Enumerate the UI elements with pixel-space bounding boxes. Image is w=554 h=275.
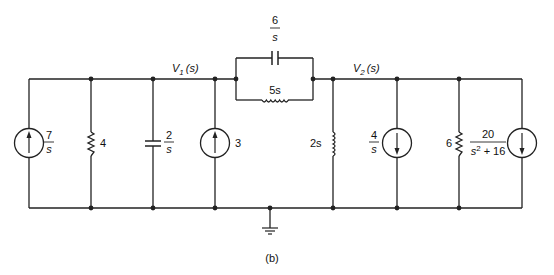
- ground-icon: [262, 228, 278, 234]
- svg-text:s: s: [272, 31, 278, 43]
- junction-dot: [151, 206, 156, 211]
- circuit-diagram: V1(s) V2(s) 7 s 4 2 s 3 6 s 5s: [0, 0, 554, 275]
- junction-dot: [331, 77, 336, 82]
- svg-text:s: s: [46, 143, 52, 155]
- inductor-5s: 5s: [262, 84, 288, 102]
- junction-dot: [213, 77, 218, 82]
- junction-dot: [89, 206, 94, 211]
- svg-text:2s: 2s: [310, 137, 322, 149]
- current-source-3: 3: [201, 129, 242, 158]
- arrow-up-icon: [213, 131, 218, 138]
- resistor-4: 4: [88, 132, 106, 156]
- inductor-icon: [333, 132, 335, 156]
- svg-text:3: 3: [235, 137, 241, 149]
- resistor-icon: [88, 132, 94, 156]
- node-label-v1: V1(s): [172, 62, 199, 77]
- junction-dot: [151, 77, 156, 82]
- node-label-v2: V2(s): [353, 62, 380, 77]
- svg-text:2: 2: [166, 129, 172, 141]
- svg-text:4: 4: [371, 129, 377, 141]
- current-source-20-over-s2-plus-16: 20 s2 + 16: [470, 128, 537, 158]
- resistor-icon: [456, 132, 462, 156]
- junction-dot: [234, 77, 239, 82]
- junctions: [89, 77, 462, 211]
- junction-dot: [395, 77, 400, 82]
- junction-dot: [89, 77, 94, 82]
- junction-dot: [213, 206, 218, 211]
- svg-text:s: s: [371, 143, 377, 155]
- inductor-icon: [262, 100, 288, 102]
- inductor-5s-label: 5s: [269, 84, 281, 96]
- svg-text:s: s: [166, 143, 172, 155]
- current-source-7-over-s: 7 s: [15, 129, 55, 158]
- svg-text:20: 20: [482, 128, 494, 140]
- junction-dot: [395, 206, 400, 211]
- arrow-down-icon: [395, 148, 400, 155]
- junction-dot: [268, 206, 273, 211]
- inductor-2s: 2s: [310, 132, 335, 156]
- junction-dot: [331, 206, 336, 211]
- junction-dot: [457, 206, 462, 211]
- svg-text:7: 7: [46, 129, 52, 141]
- capacitor-6-over-s: 6 s: [270, 14, 280, 65]
- arrow-up-icon: [27, 131, 32, 138]
- svg-text:4: 4: [100, 137, 106, 149]
- resistor-6: 6: [446, 132, 462, 156]
- junction-dot: [311, 77, 316, 82]
- capacitor-2-over-s: 2 s: [145, 129, 174, 155]
- junction-dot: [457, 77, 462, 82]
- current-source-4-over-s: 4 s: [369, 129, 412, 158]
- svg-text:6: 6: [446, 137, 452, 149]
- svg-text:s2 + 16: s2 + 16: [471, 144, 506, 157]
- arrow-down-icon: [520, 148, 525, 155]
- figure-caption: (b): [265, 252, 278, 264]
- svg-text:6: 6: [272, 14, 278, 26]
